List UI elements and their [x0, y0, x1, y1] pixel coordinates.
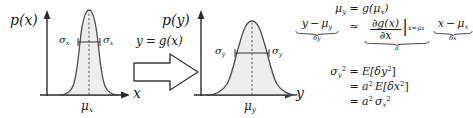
right-y-axis-label: p(y)	[162, 12, 190, 28]
eq4-relation: =	[346, 80, 362, 93]
equation-line-variance-1: σy2 = E[δy2]	[312, 65, 396, 79]
eq2-lhs-brace-group: y−μy δy	[288, 18, 346, 41]
right-sigma-label-right: σy	[272, 45, 282, 57]
eq2-lhs-brace-label: δy	[313, 35, 320, 41]
eq3-rhs: E[δy2]	[362, 65, 396, 78]
eq2-derivative: ∂g(x) ∂x | x=μx	[370, 18, 425, 41]
eq2-rhs-brace-label: δx	[449, 35, 456, 41]
equation-line-mean: μy = g(μx)	[312, 2, 389, 16]
right-sigma-label-left: σy	[215, 45, 225, 57]
equation-line-linearization: y−μy δy ≈ ∂g(x) ∂x | x=μx	[288, 18, 473, 52]
eq3-lhs: σy2	[312, 65, 346, 79]
eq2-lhs: y−μy	[302, 18, 332, 31]
left-sigma-label-left: σx	[59, 34, 69, 46]
right-mean-label: μy	[244, 99, 256, 114]
eq3-relation: =	[346, 65, 362, 78]
equation-line-variance-3: = a2σx2	[312, 95, 391, 109]
eq2-evaluation-subscript: x=μx	[408, 22, 424, 34]
eq2-rhs-brace-group: x−μx δx	[433, 18, 473, 41]
right-x-axis-label: y	[296, 85, 304, 101]
eq4-rhs: a2E[δx2]	[362, 80, 409, 93]
left-y-axis-label: p(x)	[10, 12, 38, 28]
eq5-rhs: a2σx2	[362, 95, 391, 109]
eq1-lhs: μy	[312, 2, 346, 16]
equations-block: μy = g(μx) y−μy δy ≈ ∂g(x) ∂x	[312, 0, 461, 118]
right-y-axis-arrowhead	[198, 10, 205, 19]
eq2-partial-fraction: ∂g(x) ∂x	[370, 18, 402, 41]
eq2-derivative-brace-label: a	[395, 45, 399, 51]
eq2-derivative-group: ∂g(x) ∂x | x=μx a	[364, 18, 430, 52]
eq2-rhs: x−μx	[438, 18, 468, 31]
left-x-axis-arrowhead	[121, 92, 130, 99]
eq2-relation: ≈	[346, 18, 362, 33]
eq1-rhs: g(μx)	[362, 2, 389, 16]
left-y-axis-arrowhead	[44, 10, 51, 19]
eq2-evaluation-bar-group: | x=μx	[402, 18, 424, 34]
left-sigma-label-right: σx	[103, 34, 113, 46]
left-mean-label: μx	[81, 99, 93, 114]
eq1-relation: =	[346, 2, 362, 15]
eq5-relation: =	[346, 95, 362, 108]
equation-line-variance-2: = a2E[δx2]	[312, 80, 409, 93]
